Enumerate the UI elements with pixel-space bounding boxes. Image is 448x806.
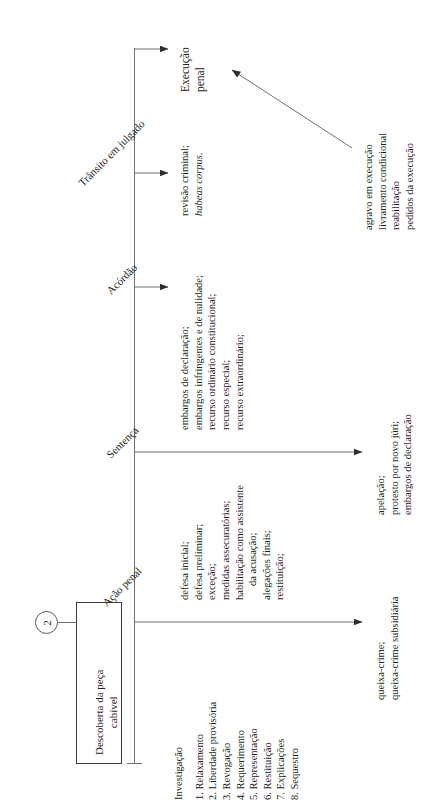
investigacao-item-6: 6. Restituição <box>261 702 275 800</box>
note-acordao-line2: habeas corpus. <box>192 145 206 216</box>
note-acordao-recursos: revisão criminal; habeas corpus. <box>178 145 205 216</box>
note-defesa-l7: alegações finais; <box>260 485 274 600</box>
note-execucao-incidentes: agravo em execução livramento condiciona… <box>362 133 417 230</box>
investigacao-item-2: 2. Liberdade provisória <box>206 702 220 800</box>
note-apelacao-l1: apelação; <box>374 414 388 515</box>
note-sentenca-recursos: embargos de declaração; embargos infring… <box>178 275 246 430</box>
note-queixa-l2: queixa-crime subsidiária <box>388 596 402 700</box>
note-acaopenal-defesa: defesa inicial; defesa preliminar; exceç… <box>178 485 287 600</box>
investigacao-item-5: 5. Representação <box>247 702 261 800</box>
note-sentenca-l1: embargos de declaração; <box>178 275 192 430</box>
note-execucao-l2: livramento condicional <box>376 133 390 230</box>
investigacao-item-3: 3. Revogação <box>220 702 234 800</box>
investigacao-item-1: 1. Relaxamento <box>193 702 207 800</box>
note-investigacao: Investigação 1. Relaxamento 2. Liberdade… <box>172 702 302 800</box>
diagram-canvas: Descoberta da peça cabível 2 Ação penal <box>0 0 448 806</box>
note-investigacao-heading: Investigação <box>172 702 186 800</box>
note-defesa-l1: defesa inicial; <box>178 485 192 600</box>
investigacao-item-4: 4. Requerimento <box>234 702 248 800</box>
note-defesa-l8: restituição; <box>273 485 287 600</box>
note-defesa-l5: habilitação como assistente <box>233 485 247 600</box>
note-defesa-l3: exceção; <box>205 485 219 600</box>
note-execucao-penal: Execução penal <box>178 47 208 92</box>
note-queixa-l1: queixa-crime; <box>374 596 388 700</box>
note-sentenca-l5: recurso extraordinário; <box>233 275 247 430</box>
note-acaopenal-queixa: queixa-crime; queixa-crime subsidiária <box>374 596 401 700</box>
note-execucao-l1: agravo em execução <box>362 133 376 230</box>
note-execucao-penal-line1: Execução <box>178 47 193 92</box>
note-execucao-penal-line2: penal <box>193 47 208 92</box>
note-defesa-l2: defesa preliminar; <box>192 485 206 600</box>
note-defesa-l4: medidas assecuratórias; <box>219 485 233 600</box>
note-execucao-l3: reabilitação <box>389 133 403 230</box>
note-execucao-l4: pedidos da execução <box>403 133 417 230</box>
note-sentenca-l2: embargos infringentes e de nulidade; <box>192 275 206 430</box>
note-apelacao-l2: protesto por novo júri; <box>388 414 402 515</box>
note-sentenca-l4: recurso especial; <box>219 275 233 430</box>
investigacao-item-8: 8. Sequestro <box>288 702 302 800</box>
note-acordao-line1: revisão criminal; <box>178 145 192 216</box>
note-sentenca-l3: recurso ordinário constitucional; <box>205 275 219 430</box>
note-defesa-l6: da acusação; <box>246 485 260 600</box>
note-sentenca-apelacao: apelação; protesto por novo júri; embarg… <box>374 414 415 515</box>
note-apelacao-l3: embargos de declaração <box>401 414 415 515</box>
arrow-execucao-notes-to-execucao-penal <box>232 70 352 148</box>
investigacao-item-7: 7. Explicações <box>274 702 288 800</box>
